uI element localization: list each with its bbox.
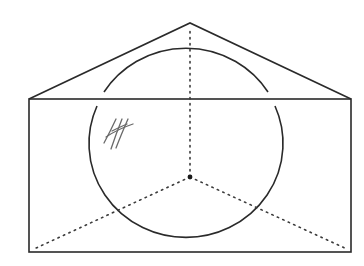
diagram-canvas xyxy=(0,0,364,266)
dotted-line-right xyxy=(190,177,347,249)
circle-lower-arc xyxy=(89,106,283,237)
center-point xyxy=(188,175,193,180)
handwritten-mark-icon xyxy=(104,119,133,149)
circle-upper-arc xyxy=(104,48,268,92)
dotted-line-left xyxy=(34,177,190,249)
geometry-figure xyxy=(0,0,364,266)
